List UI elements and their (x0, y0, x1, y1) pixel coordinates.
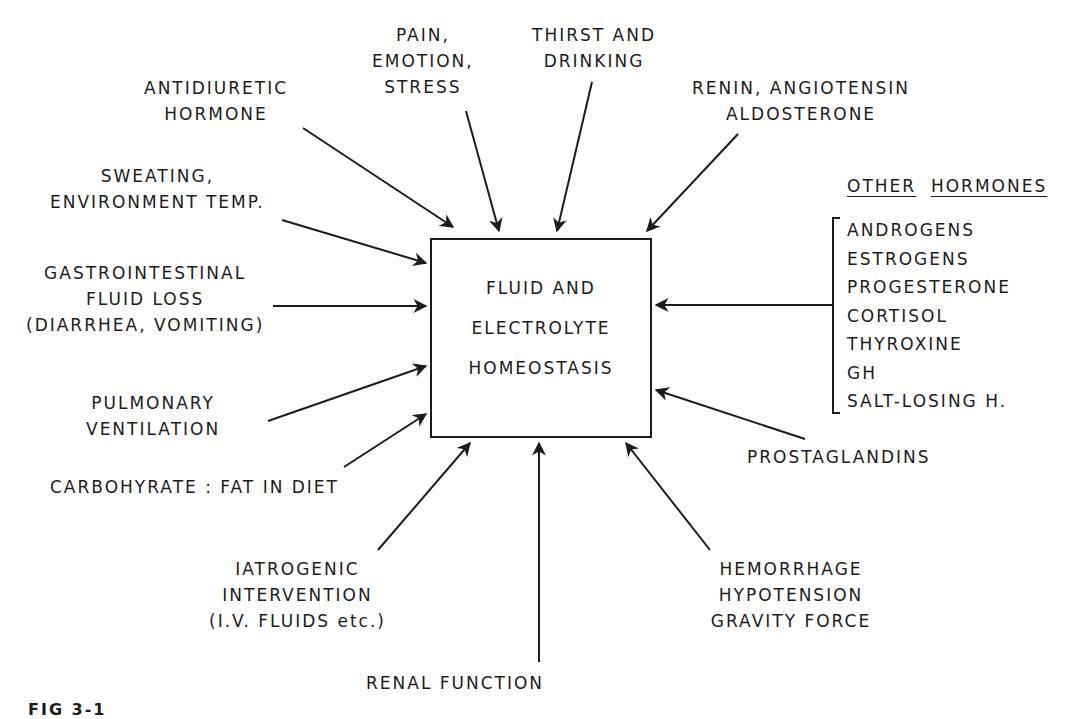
hormone-item: GH (847, 359, 1011, 388)
arrow-renin (647, 134, 738, 231)
label-thirst-drinking: THIRST AND DRINKING (532, 22, 656, 74)
hormone-item: THYROXINE (847, 330, 1011, 359)
hormone-item: SALT-LOSING H. (847, 387, 1011, 416)
arrow-sweating (282, 220, 426, 263)
arrow-hemorrhage (626, 443, 710, 550)
arrow-prostaglandins (656, 390, 805, 439)
label-renal-function: RENAL FUNCTION (366, 670, 544, 696)
label-gastrointestinal: GASTROINTESTINAL FLUID LOSS (DIARRHEA, V… (26, 260, 264, 338)
label-renin-angiotensin-aldosterone: RENIN, ANGIOTENSIN ALDOSTERONE (692, 75, 910, 127)
label-carbohydrate-fat: CARBOHYRATE : FAT IN DIET (50, 474, 339, 500)
other-hormones-list: ANDROGENS ESTROGENS PROGESTERONE CORTISO… (847, 216, 1011, 416)
arrow-thirst (557, 82, 592, 231)
center-line-1: FLUID AND (430, 268, 652, 308)
arrow-carbohydrate (344, 414, 426, 467)
center-line-3: HOMEOSTASIS (430, 348, 652, 388)
center-line-2: ELECTROLYTE (430, 308, 652, 348)
arrow-antidiuretic (303, 128, 453, 227)
figure-caption: FIG 3-1 (28, 700, 107, 719)
hormones-bracket (832, 217, 840, 414)
other-hormones-title-word2: HORMONES (931, 176, 1047, 196)
label-antidiuretic-hormone: ANTIDIURETIC HORMONE (144, 75, 288, 127)
label-prostaglandins: PROSTAGLANDINS (747, 444, 931, 470)
label-hemorrhage: HEMORRHAGE HYPOTENSION GRAVITY FORCE (541, 556, 1041, 634)
arrow-pulmonary (268, 366, 426, 421)
label-sweating: SWEATING, ENVIRONMENT TEMP. (50, 163, 265, 215)
label-iatrogenic-intervention: IATROGENIC INTERVENTION (I.V. FLUIDS etc… (209, 556, 386, 634)
hormone-item: ESTROGENS (847, 245, 1011, 274)
other-hormones-title: OTHER HORMONES (847, 176, 1047, 196)
label-pulmonary-ventilation: PULMONARY VENTILATION (86, 390, 220, 442)
hormone-item: ANDROGENS (847, 216, 1011, 245)
center-label: FLUID AND ELECTROLYTE HOMEOSTASIS (430, 268, 652, 388)
label-pain-emotion-stress: PAIN, EMOTION, STRESS (372, 22, 474, 100)
arrow-pain (466, 111, 499, 231)
hormone-item: PROGESTERONE (847, 273, 1011, 302)
arrow-iatrogenic (378, 443, 470, 550)
hormone-item: CORTISOL (847, 302, 1011, 331)
other-hormones-title-word1: OTHER (847, 176, 916, 196)
